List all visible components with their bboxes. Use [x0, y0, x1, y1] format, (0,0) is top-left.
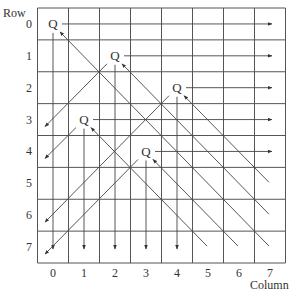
row-label: 3	[26, 113, 32, 127]
row-label: 4	[26, 144, 32, 158]
column-label: 5	[205, 266, 211, 280]
row-label: 1	[26, 49, 32, 63]
row-label: 7	[26, 240, 32, 254]
column-label: 3	[143, 266, 149, 280]
column-label: 0	[50, 266, 56, 280]
diagonal-arrow-down-left-icon	[45, 159, 138, 254]
queen-icon: Q	[48, 16, 58, 31]
diagonal-arrow-down-left-icon	[45, 64, 107, 127]
column-labels: 01234567	[50, 266, 273, 280]
diagonal-arrow-up-left-icon	[153, 159, 238, 246]
row-label: 5	[26, 176, 32, 190]
row-label: 0	[26, 17, 32, 31]
row-label: 6	[26, 208, 32, 222]
column-label: 4	[174, 266, 180, 280]
queen-icon: Q	[79, 112, 89, 127]
diagonal-arrow-down-left-icon	[45, 96, 169, 223]
diagonal-arrow-down-left-icon	[45, 128, 76, 159]
column-label: 6	[236, 266, 242, 280]
queen-icon: Q	[172, 80, 182, 95]
diagonal-arrow-up-left-icon	[122, 64, 269, 214]
column-label: 1	[81, 266, 87, 280]
column-label: 2	[112, 266, 118, 280]
queen-icon: Q	[141, 144, 151, 159]
row-label: 2	[26, 81, 32, 95]
diagonal-arrow-up-left-icon	[60, 32, 269, 246]
n-queens-attack-diagram: Row Column 01234567 01234567 QQQQQ	[0, 0, 291, 293]
column-label: 7	[267, 266, 273, 280]
diagonal-arrow-up-left-icon	[184, 96, 269, 183]
attack-arrows	[45, 24, 272, 254]
row-labels: 01234567	[26, 17, 32, 254]
queen-icon: Q	[110, 48, 120, 63]
column-axis-label: Column	[250, 278, 289, 292]
row-axis-label: Row	[3, 6, 26, 20]
